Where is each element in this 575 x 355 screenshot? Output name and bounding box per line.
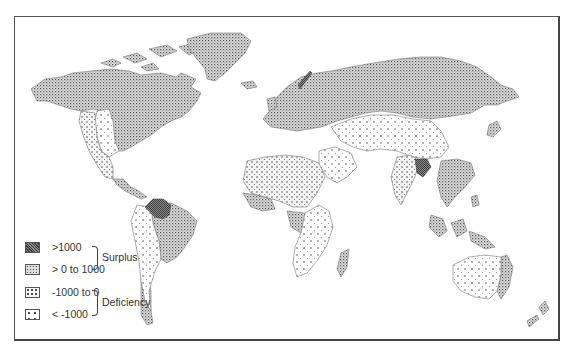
region-new-zealand [539, 301, 549, 315]
region-se-asia [437, 159, 475, 207]
surplus-brace [92, 246, 98, 270]
legend-label: < -1000 [52, 308, 88, 320]
region-greenland [187, 33, 251, 81]
legend-item-deficiency: -1000 to 0 [25, 286, 99, 298]
swatch-fine-dots [25, 264, 40, 275]
region-australia-interior [453, 255, 501, 299]
region-alaska-canada [31, 69, 201, 151]
region-central-america [113, 179, 147, 199]
region-japan [487, 121, 501, 137]
swatch-medium-dots [25, 287, 40, 298]
deficiency-brace [92, 290, 98, 316]
region-madagascar [337, 249, 349, 277]
region-india [391, 155, 419, 205]
region-indonesia [429, 215, 447, 237]
legend-item-high-surplus: >1000 [25, 241, 82, 253]
legend-label: >1000 [52, 241, 82, 253]
surplus-group-label: Surplus [102, 251, 138, 263]
legend-item-severe-deficiency: < -1000 [25, 308, 88, 320]
swatch-crosshatch [25, 242, 40, 253]
deficiency-group-label: Deficiency [102, 296, 150, 308]
map-legend: >1000 > 0 to 1000 -1000 to 0 < -1000 Sur… [25, 240, 175, 330]
region-bangladesh [415, 159, 431, 177]
swatch-sparse-dots [25, 309, 40, 320]
